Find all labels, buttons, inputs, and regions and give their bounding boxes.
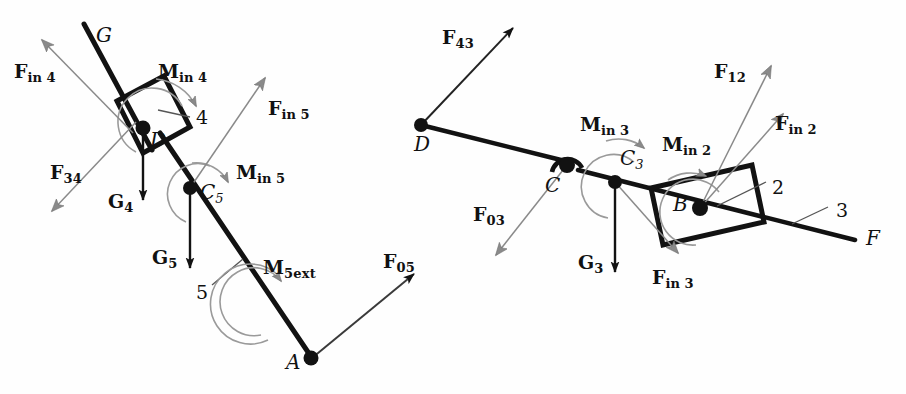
link-3-bar-left bbox=[421, 125, 561, 160]
joint-dot-C3 bbox=[608, 175, 622, 189]
label-M-in-3: Min 3 bbox=[580, 115, 629, 134]
label-joint-C: C bbox=[545, 175, 560, 195]
label-F-03: F03 bbox=[473, 205, 505, 224]
label-joint-A: A bbox=[286, 352, 300, 372]
label-M-5ext: M5ext bbox=[263, 258, 316, 277]
label-axis-G: G bbox=[96, 25, 112, 45]
diagram-canvas: Fin 4 G Min 4 4 D Fin 5 F34 C5 Min 5 G4 … bbox=[0, 0, 906, 394]
label-M-in-4: Min 4 bbox=[158, 62, 207, 81]
label-M-in-4-base: M bbox=[158, 60, 179, 82]
label-F-03-sub: 03 bbox=[487, 213, 506, 228]
label-G-5-sub: 5 bbox=[168, 256, 177, 271]
label-G-4-sub: 4 bbox=[124, 200, 133, 215]
label-F-in-5-sub: in 5 bbox=[282, 107, 310, 122]
label-G-3-base: G bbox=[578, 251, 594, 273]
label-joint-B: B bbox=[673, 194, 688, 214]
leader-link-3 bbox=[792, 207, 828, 224]
label-joint-C3: C3 bbox=[620, 148, 644, 168]
label-F-34: F34 bbox=[50, 163, 82, 182]
joint-dot-B bbox=[692, 200, 708, 216]
label-F-34-sub: 34 bbox=[64, 171, 83, 186]
label-M-in-5: Min 5 bbox=[236, 163, 285, 182]
label-F-in-2: Fin 2 bbox=[775, 114, 816, 133]
label-joint-C5-base: C bbox=[200, 180, 215, 204]
label-G-3-sub: 3 bbox=[594, 261, 603, 276]
label-M-in-4-sub: in 4 bbox=[179, 70, 207, 85]
label-F-34-base: F bbox=[50, 161, 64, 183]
label-M-in-5-sub: in 5 bbox=[257, 171, 285, 186]
label-link-3: 3 bbox=[836, 201, 848, 220]
label-link-2: 2 bbox=[772, 178, 784, 197]
label-F-12: F12 bbox=[714, 62, 746, 81]
label-G-4: G4 bbox=[108, 192, 133, 211]
joint-dot-D-right bbox=[414, 118, 428, 132]
label-F-in-2-sub: in 2 bbox=[789, 122, 817, 137]
F-05-vector bbox=[312, 274, 414, 358]
label-F-43-base: F bbox=[442, 26, 456, 48]
label-F-03-base: F bbox=[473, 203, 487, 225]
joint-dot-C bbox=[559, 157, 575, 173]
label-M-in-5-base: M bbox=[236, 161, 257, 183]
label-link-4: 4 bbox=[196, 108, 208, 127]
label-M-in-2-sub: in 2 bbox=[683, 143, 711, 158]
label-axis-F: F bbox=[866, 228, 880, 248]
label-G-4-base: G bbox=[108, 190, 124, 212]
label-joint-C5-sub: 5 bbox=[215, 191, 223, 206]
label-F-12-sub: 12 bbox=[728, 70, 747, 85]
label-F-in-2-base: F bbox=[775, 112, 789, 134]
label-F-in-4-base: F bbox=[14, 60, 28, 82]
label-G-5-base: G bbox=[152, 246, 168, 268]
label-F-05: F05 bbox=[383, 252, 415, 271]
label-joint-C5: C5 bbox=[200, 182, 224, 202]
label-joint-C3-sub: 3 bbox=[635, 157, 643, 172]
label-M-in-3-base: M bbox=[580, 113, 601, 135]
joint-dot-C5 bbox=[183, 181, 197, 195]
joint-dot-D-left bbox=[136, 121, 151, 136]
label-link-5: 5 bbox=[196, 283, 208, 302]
label-joint-C3-base: C bbox=[620, 146, 635, 170]
label-F-05-sub: 05 bbox=[397, 260, 416, 275]
label-F-43-sub: 43 bbox=[456, 36, 475, 51]
label-F-in-3: Fin 3 bbox=[652, 268, 693, 287]
joint-dot-A bbox=[304, 351, 319, 366]
label-F-in-4: Fin 4 bbox=[14, 62, 55, 81]
label-joint-D-right: D bbox=[414, 134, 430, 154]
label-F-in-3-sub: in 3 bbox=[666, 276, 694, 291]
label-F-43: F43 bbox=[442, 28, 474, 47]
label-joint-D-left: D bbox=[150, 130, 166, 150]
label-F-in-4-sub: in 4 bbox=[28, 70, 56, 85]
label-G-5: G5 bbox=[152, 248, 177, 267]
label-F-in-3-base: F bbox=[652, 266, 666, 288]
label-M-in-3-sub: in 3 bbox=[601, 123, 629, 138]
label-F-in-5: Fin 5 bbox=[268, 99, 309, 118]
label-M-5ext-sub: 5ext bbox=[284, 266, 316, 281]
label-F-12-base: F bbox=[714, 60, 728, 82]
label-F-in-5-base: F bbox=[268, 97, 282, 119]
label-M-in-2: Min 2 bbox=[662, 135, 711, 154]
label-F-05-base: F bbox=[383, 250, 397, 272]
label-M-5ext-base: M bbox=[263, 256, 284, 278]
label-G-3: G3 bbox=[578, 253, 603, 272]
label-M-in-2-base: M bbox=[662, 133, 683, 155]
free-body-diagram-svg bbox=[0, 0, 906, 394]
